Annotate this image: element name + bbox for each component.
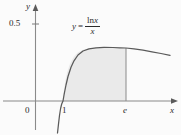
x-axis-arrowhead <box>171 98 178 104</box>
equation-numerator-variable: x <box>94 15 98 25</box>
function-graph-figure: y x 0.5 0 1 e y = lnx x <box>0 0 181 135</box>
y-axis-label: y <box>26 2 30 11</box>
y-tick-label-0-5: 0.5 <box>9 19 20 28</box>
equation-annotation: y = lnx x <box>72 16 100 36</box>
equation-fraction: lnx x <box>85 16 100 36</box>
equation-denominator: x <box>89 27 97 36</box>
origin-label: 0 <box>25 106 30 115</box>
equation-equals-sign: = <box>78 22 85 31</box>
equation-numerator: lnx <box>85 16 100 25</box>
x-axis-label: x <box>170 106 174 115</box>
x-tick-label-e: e <box>123 106 127 115</box>
shaded-area-region <box>63 48 126 101</box>
x-tick-label-1: 1 <box>62 106 67 115</box>
y-axis-arrowhead <box>33 4 39 11</box>
